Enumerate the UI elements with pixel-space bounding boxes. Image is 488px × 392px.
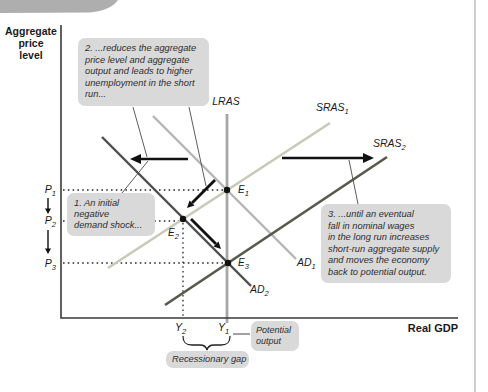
e2-label: E2: [168, 227, 179, 241]
note2-pointer-b: [189, 107, 206, 186]
y2-tick-label: Y2: [175, 321, 186, 336]
ad-shift-left-arrowhead: [130, 154, 141, 164]
note1-pointer: [122, 161, 148, 193]
p3-tick-label: P3: [38, 257, 56, 272]
sras-shift-right-arrowhead: [363, 153, 374, 163]
ad2-label: AD2: [250, 283, 269, 298]
page-corner-swoosh: [0, 0, 118, 13]
recessionary-gap-brace: [183, 336, 230, 350]
e3-point: [225, 260, 231, 266]
note2-callout: 2. ...reduces the aggregate price level …: [78, 38, 209, 106]
ad1-label: AD1: [297, 256, 316, 271]
note3-callout: 3. ...until an eventual fall in nominal …: [321, 204, 451, 283]
e2-point: [180, 216, 186, 222]
potential-output-label: Potential output: [251, 321, 299, 351]
p1-tick-label: P1: [38, 183, 56, 198]
y1-tick-label: Y1: [218, 321, 229, 336]
note1-callout: 1. An initial negative demand shock...: [67, 193, 155, 236]
e1-label: E1: [238, 184, 249, 198]
sras2-label: SRAS2: [373, 137, 406, 152]
p2-p3-arrowhead: [45, 249, 51, 255]
x-axis-title: Real GDP: [398, 322, 458, 334]
y-axis-title: Aggregate price level: [2, 25, 60, 61]
lras-label: LRAS: [207, 95, 245, 107]
e3-label: E3: [238, 257, 249, 271]
sras1-label: SRAS1: [316, 101, 349, 116]
as-ad-recessionary-gap-figure: Aggregate price level Real GDP LRAS SRAS…: [0, 0, 488, 392]
e1-point: [224, 187, 230, 193]
recessionary-gap-label: Recessionary gap: [166, 351, 249, 368]
p2-tick-label: P2: [38, 214, 56, 229]
e2-to-e3-arrow: [191, 219, 216, 244]
note2-pointer-a: [133, 107, 147, 157]
